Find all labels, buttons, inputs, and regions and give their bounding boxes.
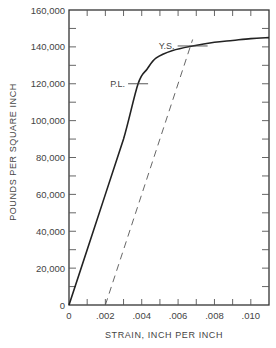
data-series (69, 38, 269, 305)
plot-border (69, 10, 269, 305)
y-tick-label: 0 (60, 300, 65, 311)
x-tick-label: .008 (205, 310, 224, 321)
x-tick-label: .004 (132, 310, 151, 321)
y-axis-title: POUNDS PER SQUARE INCH (8, 83, 18, 221)
y-tick-label: 160,000 (31, 5, 65, 16)
y-tick-label: 120,000 (31, 78, 65, 89)
x-tick-labels: 0.002.004.006.008.010 (66, 310, 260, 321)
proportional-limit-label: P.L. (110, 79, 125, 89)
y-tick-label: 20,000 (36, 263, 65, 274)
x-tick-label: .006 (169, 310, 188, 321)
plot-frame (69, 10, 269, 305)
y-tick-label: 80,000 (36, 152, 65, 163)
y-tick-label: 140,000 (31, 41, 65, 52)
x-tick-label: .010 (242, 310, 261, 321)
y-tick-label: 40,000 (36, 226, 65, 237)
x-tick-label: .002 (96, 310, 115, 321)
y-tick-label: 60,000 (36, 189, 65, 200)
y-axis-title-group: POUNDS PER SQUARE INCH (8, 83, 18, 221)
axis-ticks (69, 10, 269, 305)
y-tick-label: 100,000 (31, 115, 65, 126)
stress-strain-curve (69, 38, 269, 305)
y-tick-labels: 020,00040,00060,00080,000100,000120,0001… (31, 5, 65, 311)
annotations: P.L.Y.S. (110, 41, 207, 89)
x-axis-title: STRAIN, INCH PER INCH (105, 330, 223, 340)
x-tick-label: 0 (66, 310, 71, 321)
yield-strength-label: Y.S. (159, 41, 175, 51)
stress-strain-chart: POUNDS PER SQUARE INCH STRAIN, INCH PER … (0, 0, 276, 348)
